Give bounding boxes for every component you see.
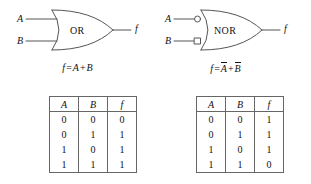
nor-equation-equals: = — [213, 63, 221, 74]
table-header-row: A B f — [50, 97, 137, 112]
nor-equation: f=A+B — [148, 62, 303, 74]
or-input-label-b: B — [17, 36, 23, 46]
inversion-bubble-icon-b — [195, 38, 201, 44]
or-gate-diagram: A B f OR — [0, 0, 155, 60]
table-row: 1 1 1 — [50, 157, 137, 173]
column-header-f: f — [108, 97, 137, 112]
cell-f: 0 — [255, 157, 284, 173]
cell-a: 1 — [50, 157, 79, 173]
cell-b: 0 — [79, 112, 108, 128]
column-header-a: A — [50, 97, 79, 112]
nor-truth-table: A B f 0 0 1 0 1 1 1 0 — [196, 96, 284, 173]
or-equation-equals: = — [65, 62, 73, 73]
nor-output-label-f: f — [284, 24, 287, 34]
cell-b: 1 — [226, 127, 255, 142]
or-equation-operator: + — [79, 62, 87, 73]
nor-input-label-b: B — [165, 36, 171, 46]
cell-a: 1 — [197, 157, 226, 173]
nor-gate-diagram: A B f NOR — [156, 0, 311, 60]
column-header-b: B — [226, 97, 255, 112]
cell-a: 0 — [50, 112, 79, 128]
table-row: 1 0 1 — [197, 142, 284, 157]
table-row: 0 1 1 — [197, 127, 284, 142]
cell-a: 0 — [197, 127, 226, 142]
cell-b: 0 — [226, 142, 255, 157]
cell-f: 1 — [108, 127, 137, 142]
cell-b: 0 — [79, 142, 108, 157]
table-row: 0 1 1 — [50, 127, 137, 142]
cell-a: 1 — [50, 142, 79, 157]
or-truth-table: A B f 0 0 0 0 1 1 1 0 — [49, 96, 137, 173]
nor-equation-term1: A — [221, 62, 227, 74]
cell-b: 1 — [226, 157, 255, 173]
or-gate-label: OR — [70, 25, 85, 36]
or-input-label-a: A — [17, 14, 23, 24]
logic-gates-figure: A B f OR f=A+B A B f 0 0 0 — [0, 0, 311, 184]
nor-input-label-a: A — [165, 14, 171, 24]
cell-f: 1 — [255, 127, 284, 142]
table-row: 1 0 1 — [50, 142, 137, 157]
or-gate-back-arc — [52, 10, 59, 50]
cell-f: 0 — [108, 112, 137, 128]
nor-equation-operator: + — [227, 63, 235, 74]
column-header-b: B — [79, 97, 108, 112]
table-row: 1 1 0 — [197, 157, 284, 173]
panel-nor-gate: A B f NOR f=A+B A B f 0 0 1 — [156, 0, 311, 184]
cell-f: 1 — [108, 142, 137, 157]
or-equation: f=A+B — [0, 62, 155, 73]
cell-b: 1 — [79, 127, 108, 142]
or-equation-term2: B — [87, 62, 93, 73]
cell-a: 1 — [197, 142, 226, 157]
inversion-bubble-icon-a — [195, 16, 201, 22]
column-header-f: f — [255, 97, 284, 112]
cell-f: 1 — [108, 157, 137, 173]
column-header-a: A — [197, 97, 226, 112]
panel-or-gate: A B f OR f=A+B A B f 0 0 0 — [0, 0, 155, 184]
nor-gate-label: NOR — [214, 25, 236, 36]
cell-f: 1 — [255, 112, 284, 128]
or-equation-term1: A — [73, 62, 79, 73]
table-header-row: A B f — [197, 97, 284, 112]
cell-b: 0 — [226, 112, 255, 128]
table-row: 0 0 0 — [50, 112, 137, 128]
cell-f: 1 — [255, 142, 284, 157]
nor-gate-back-arc — [201, 10, 208, 50]
cell-a: 0 — [197, 112, 226, 128]
or-output-label-f: f — [135, 24, 138, 34]
cell-a: 0 — [50, 127, 79, 142]
nor-equation-term2: B — [235, 62, 241, 74]
table-row: 0 0 1 — [197, 112, 284, 128]
cell-b: 1 — [79, 157, 108, 173]
